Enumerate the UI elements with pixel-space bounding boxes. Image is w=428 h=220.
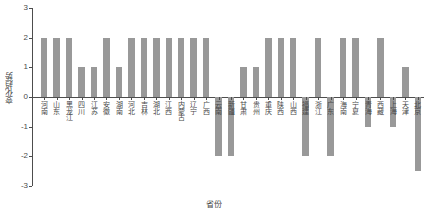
x-tick-label: 宁夏: [352, 101, 359, 114]
x-tick-label: 四川: [78, 101, 85, 114]
bar: [78, 67, 84, 97]
x-tick-mark: [368, 97, 369, 100]
y-axis-title-text: 变化趋势: [6, 72, 14, 104]
y-tick-label: 0: [24, 93, 28, 101]
x-tick-label: 山东: [53, 101, 60, 114]
x-tick-label: 重庆: [265, 101, 272, 114]
x-tick-mark: [418, 97, 419, 100]
x-tick-label: 江苏: [90, 101, 97, 114]
x-tick-mark: [44, 97, 45, 100]
x-tick-label: 新疆: [227, 101, 234, 114]
y-tick-mark: [29, 97, 32, 98]
x-axis-tick-labels: 河南山东黑龙江四川江苏安徽湖南河北吉林湖北江西内蒙古辽宁广西云南新疆甘肃贵州重庆…: [32, 0, 424, 60]
x-tick-mark: [82, 97, 83, 100]
y-tick-mark: [29, 186, 32, 187]
x-tick-mark: [331, 97, 332, 100]
x-tick-label: 湖南: [115, 101, 122, 114]
x-tick-mark: [156, 97, 157, 100]
x-tick-label: 海南: [339, 101, 346, 114]
x-tick-mark: [256, 97, 257, 100]
x-tick-mark: [206, 97, 207, 100]
x-tick-label: 江西: [165, 101, 172, 114]
x-tick-label: 广东: [327, 101, 334, 114]
x-tick-mark: [293, 97, 294, 100]
bar-chart: 变化趋势 3210-1-2-3 河南山东黑龙江四川江苏安徽湖南河北吉林湖北江西内…: [0, 0, 428, 220]
y-tick-label: -1: [21, 123, 28, 131]
x-tick-label: 黑龙江: [65, 101, 72, 121]
x-tick-mark: [219, 97, 220, 100]
y-tick-mark: [29, 156, 32, 157]
x-tick-mark: [169, 97, 170, 100]
x-tick-label: 西藏: [377, 101, 384, 114]
x-tick-label: 青海: [364, 101, 371, 114]
x-tick-label: 上海: [389, 101, 396, 114]
y-tick-label: 3: [24, 4, 28, 12]
x-tick-label: 浙江: [314, 101, 321, 114]
x-tick-label: 甘肃: [240, 101, 247, 114]
x-tick-mark: [405, 97, 406, 100]
x-tick-mark: [194, 97, 195, 100]
x-tick-mark: [393, 97, 394, 100]
x-tick-label: 河南: [41, 101, 48, 114]
y-tick-label: -2: [21, 152, 28, 160]
bar: [240, 67, 246, 97]
x-tick-mark: [243, 97, 244, 100]
x-tick-mark: [119, 97, 120, 100]
x-tick-mark: [306, 97, 307, 100]
bar: [91, 67, 97, 97]
x-tick-label: 北京: [414, 101, 421, 114]
x-tick-mark: [318, 97, 319, 100]
x-tick-mark: [131, 97, 132, 100]
x-tick-label: 广西: [202, 101, 209, 114]
x-tick-mark: [380, 97, 381, 100]
x-tick-mark: [343, 97, 344, 100]
x-tick-label: 湖北: [153, 101, 160, 114]
x-tick-label: 福建: [302, 101, 309, 114]
y-axis-tick-labels: 3210-1-2-3: [16, 8, 30, 186]
x-axis-title: 省份: [0, 198, 428, 209]
y-tick-label: 1: [24, 63, 28, 71]
x-tick-mark: [181, 97, 182, 100]
x-tick-mark: [356, 97, 357, 100]
x-tick-mark: [57, 97, 58, 100]
x-tick-mark: [69, 97, 70, 100]
x-tick-mark: [268, 97, 269, 100]
x-tick-label: 吉林: [140, 101, 147, 114]
bar: [402, 67, 408, 97]
x-tick-label: 贵州: [252, 101, 259, 114]
x-tick-label: 云南: [215, 101, 222, 114]
x-tick-label: 天津: [402, 101, 409, 114]
y-tick-label: -3: [21, 182, 28, 190]
y-tick-mark: [29, 67, 32, 68]
x-tick-label: 河北: [128, 101, 135, 114]
x-tick-mark: [94, 97, 95, 100]
bar: [116, 67, 122, 97]
x-tick-label: 安徽: [103, 101, 110, 114]
bar: [253, 67, 259, 97]
x-tick-mark: [144, 97, 145, 100]
y-tick-label: 2: [24, 34, 28, 42]
x-tick-label: 山西: [290, 101, 297, 114]
y-tick-mark: [29, 127, 32, 128]
x-tick-label: 内蒙古: [178, 101, 185, 121]
x-tick-mark: [231, 97, 232, 100]
x-tick-mark: [281, 97, 282, 100]
x-tick-label: 陕西: [277, 101, 284, 114]
x-tick-label: 辽宁: [190, 101, 197, 114]
x-tick-mark: [106, 97, 107, 100]
